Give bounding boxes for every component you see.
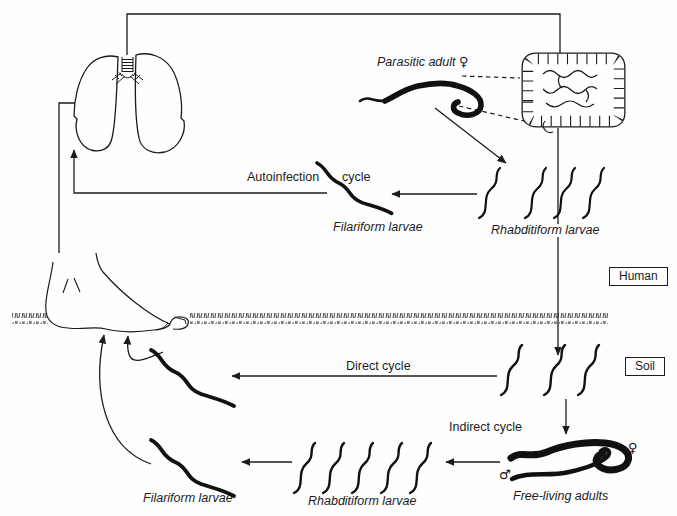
free-living-adults-label: Free-living adults xyxy=(513,490,608,503)
foot-fill xyxy=(46,253,189,332)
parasitic-adult-worm xyxy=(360,83,481,115)
foot-drawing xyxy=(46,253,189,332)
life-cycle-diagram: Parasitic adult ♀ Autoinfection cycle Fi… xyxy=(0,0,677,516)
autoinfection-cycle-word: cycle xyxy=(342,171,370,184)
direct-cycle-label: Direct cycle xyxy=(346,360,411,373)
free-living-female-worm xyxy=(511,442,629,469)
filariform-larvae-upper-label: Filariform larvae xyxy=(333,221,423,234)
soil-compartment-box: Soil xyxy=(625,357,665,376)
rhabditiform-larvae-upper-label: Rhabditiform larvae xyxy=(489,224,601,237)
rhabditiform-larvae-indirect xyxy=(294,443,431,493)
arrow-lung-to-intestine xyxy=(127,14,560,78)
male-symbol-free-living: ♂ xyxy=(499,468,511,481)
parasitic-adult-label: Parasitic adult ♀ xyxy=(377,55,469,69)
filariform-larva-indirect xyxy=(151,440,234,496)
grass-left-segment xyxy=(12,313,48,324)
female-symbol-parasitic: ♀ xyxy=(459,54,469,69)
parasitic-adult-text: Parasitic adult xyxy=(377,55,456,69)
lungs-drawing xyxy=(74,54,184,153)
grass-right-segment xyxy=(190,313,608,324)
left-lung xyxy=(74,56,118,151)
colon-inner xyxy=(528,59,619,121)
human-compartment-box: Human xyxy=(609,267,668,286)
indirect-cycle-label: Indirect cycle xyxy=(449,421,522,434)
dashed-line-upper xyxy=(462,76,520,78)
filariform-larva-direct xyxy=(151,350,234,406)
intestine-drawing xyxy=(528,59,619,133)
female-symbol-free-living: ♀ xyxy=(628,441,638,454)
filariform-larvae-lower-label: Filariform larvae xyxy=(143,492,233,505)
rhabditiform-larvae-human xyxy=(479,168,604,218)
rhabditiform-larvae-soil xyxy=(501,345,599,395)
free-living-adults-drawing xyxy=(511,442,629,479)
rhabditiform-larvae-lower-label: Rhabditiform larvae xyxy=(308,495,416,508)
right-lung xyxy=(135,54,184,153)
autoinfection-label: Autoinfection xyxy=(247,171,319,184)
arrow-filariform-to-foot-long xyxy=(100,335,151,464)
diagram-artwork xyxy=(0,0,677,516)
